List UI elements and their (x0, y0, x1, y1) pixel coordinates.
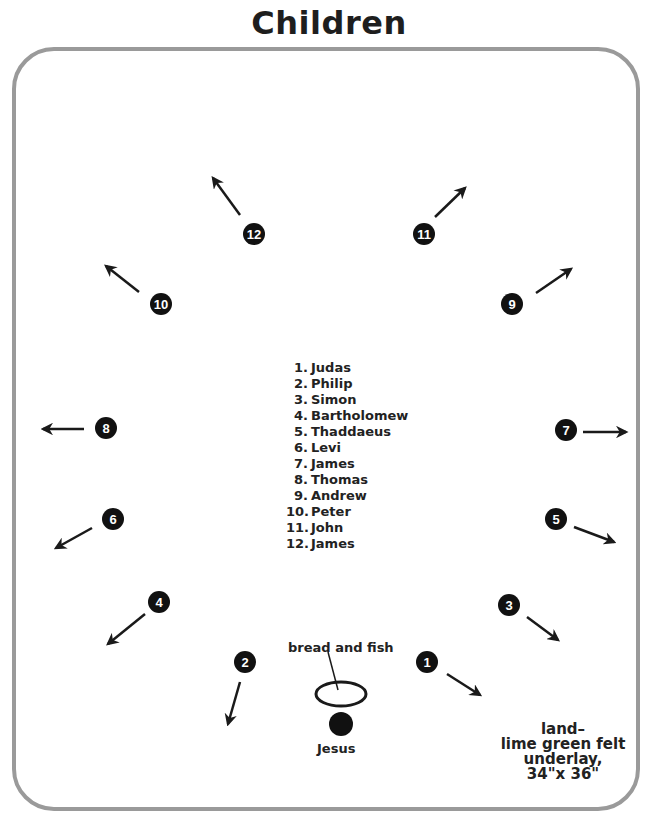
legend-name: Judas (311, 360, 351, 375)
legend-item: 3.Simon (286, 392, 408, 408)
legend-name: James (311, 536, 355, 551)
legend-item: 5.Thaddaeus (286, 424, 408, 440)
legend-item: 6.Levi (286, 440, 408, 456)
legend-number: 8. (286, 472, 308, 488)
direction-arrow-icon (435, 188, 465, 217)
legend-name: Thomas (311, 472, 368, 487)
legend-name: Thaddaeus (311, 424, 391, 439)
legend-number: 2. (286, 376, 308, 392)
legend-number: 7. (286, 456, 308, 472)
legend-number: 3. (286, 392, 308, 408)
direction-arrow-icon (56, 528, 92, 548)
direction-arrow-icon (228, 682, 240, 724)
direction-arrow-icon (213, 178, 240, 215)
seat-number: 2 (241, 655, 248, 670)
legend-number: 5. (286, 424, 308, 440)
legend-number: 4. (286, 408, 308, 424)
legend-number: 12. (286, 536, 308, 552)
seat-number: 6 (109, 512, 116, 527)
seat-9: 9 (501, 269, 571, 315)
seat-1: 1 (416, 651, 480, 695)
legend-name: Andrew (311, 488, 367, 503)
legend-item: 9.Andrew (286, 488, 408, 504)
bread-and-fish-plate-icon (316, 682, 366, 706)
legend-name: James (311, 456, 355, 471)
disciple-legend: 1.Judas2.Philip3.Simon4.Bartholomew5.Tha… (286, 360, 408, 552)
legend-name: Peter (311, 504, 351, 519)
legend-name: Simon (311, 392, 357, 407)
jesus-label: Jesus (317, 741, 355, 756)
materials-note: land– lime green felt underlay, 34"x 36" (478, 722, 648, 782)
legend-number: 11. (286, 520, 308, 536)
seat-number: 11 (417, 227, 431, 242)
legend-item: 8.Thomas (286, 472, 408, 488)
seat-number: 1 (423, 655, 430, 670)
direction-arrow-icon (574, 527, 614, 542)
seat-number: 8 (102, 421, 109, 436)
legend-number: 9. (286, 488, 308, 504)
seat-12: 12 (213, 178, 265, 245)
legend-number: 6. (286, 440, 308, 456)
legend-name: John (311, 520, 343, 535)
seat-number: 12 (247, 227, 261, 242)
food-label: bread and fish (288, 640, 394, 655)
direction-arrow-icon (527, 617, 558, 640)
seat-10: 10 (106, 266, 172, 315)
legend-item: 2.Philip (286, 376, 408, 392)
seat-4: 4 (108, 591, 170, 644)
legend-name: Bartholomew (311, 408, 408, 423)
legend-item: 10.Peter (286, 504, 408, 520)
seat-5: 5 (545, 508, 614, 542)
seat-7: 7 (555, 419, 626, 441)
seat-number: 9 (508, 297, 515, 312)
jesus-marker-icon (329, 712, 353, 736)
seat-number: 4 (155, 595, 163, 610)
seat-number: 5 (552, 512, 559, 527)
legend-item: 12.James (286, 536, 408, 552)
legend-item: 4.Bartholomew (286, 408, 408, 424)
legend-item: 7.James (286, 456, 408, 472)
legend-item: 11.John (286, 520, 408, 536)
seat-8: 8 (43, 417, 117, 439)
note-line: 34"x 36" (478, 767, 648, 782)
legend-number: 1. (286, 360, 308, 376)
direction-arrow-icon (106, 266, 139, 292)
seat-3: 3 (498, 594, 558, 640)
seat-number: 3 (505, 598, 512, 613)
direction-arrow-icon (447, 674, 480, 695)
legend-name: Levi (311, 440, 341, 455)
legend-name: Philip (311, 376, 352, 391)
seat-11: 11 (413, 188, 465, 245)
legend-number: 10. (286, 504, 308, 520)
seat-2: 2 (228, 651, 256, 724)
seat-6: 6 (56, 508, 124, 548)
legend-item: 1.Judas (286, 360, 408, 376)
seat-number: 7 (562, 423, 569, 438)
direction-arrow-icon (108, 614, 145, 644)
seat-number: 10 (154, 297, 168, 312)
direction-arrow-icon (536, 269, 571, 293)
